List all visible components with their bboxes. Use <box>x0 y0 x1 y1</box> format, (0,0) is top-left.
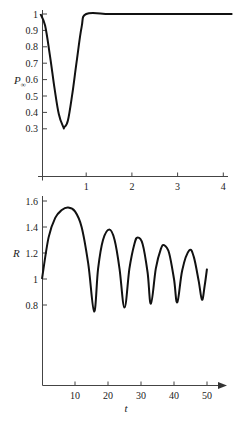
r-chart: 1.61.41.210.8 1020304050 R t <box>12 196 227 415</box>
r-x-tick-label: 30 <box>136 390 146 401</box>
x-axis-arrow-icon <box>218 382 227 389</box>
p-x-tick-label: 2 <box>129 181 134 192</box>
p-y-tick-label: 0.6 <box>26 74 39 85</box>
r-x-ticks: 1020304050 <box>70 382 212 401</box>
p-infinity-curve <box>41 13 233 129</box>
p-y-tick-label: 0.7 <box>26 58 39 69</box>
r-y-tick-label: 1.4 <box>26 222 39 233</box>
p-x-ticks: 1234 <box>84 173 226 192</box>
r-y-tick-label: 1.2 <box>26 248 39 259</box>
p-y-tick-label: 0.9 <box>26 25 39 36</box>
r-x-tick-label: 40 <box>169 390 179 401</box>
r-curve <box>42 207 207 311</box>
chart-figure: 10.90.80.70.60.50.40.3 1234 P∞ 1.61.41.2… <box>0 0 241 421</box>
p-y-tick-label: 0.5 <box>26 91 39 102</box>
p-y-tick-label: 0.8 <box>26 41 39 52</box>
p-y-ticks: 10.90.80.70.60.50.40.3 <box>26 9 48 135</box>
p-y-axis-label: P∞ <box>13 74 26 89</box>
r-y-axis-label: R <box>12 247 20 259</box>
r-x-tick-label: 50 <box>202 390 212 401</box>
r-y-tick-label: 1 <box>33 274 38 285</box>
p-infinity-chart: 10.90.80.70.60.50.40.3 1234 P∞ <box>13 9 232 192</box>
p-x-tick-label: 4 <box>221 181 226 192</box>
p-x-tick-label: 3 <box>175 181 180 192</box>
r-y-ticks: 1.61.41.210.8 <box>26 196 48 311</box>
r-y-tick-label: 1.6 <box>26 196 39 207</box>
r-y-tick-label: 0.8 <box>26 300 39 311</box>
p-y-tick-label: 0.3 <box>26 123 39 134</box>
t-x-axis-label: t <box>124 402 128 414</box>
p-x-tick-label: 1 <box>84 181 89 192</box>
r-x-tick-label: 20 <box>103 390 113 401</box>
r-x-tick-label: 10 <box>70 390 80 401</box>
p-y-tick-label: 1 <box>33 9 38 20</box>
p-y-tick-label: 0.4 <box>26 107 39 118</box>
